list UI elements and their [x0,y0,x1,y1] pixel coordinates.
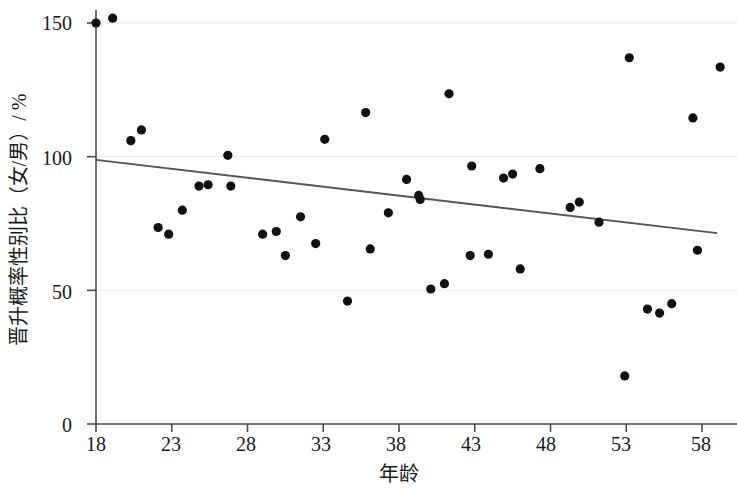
x-tick-label-43: 43 [446,434,496,454]
x-tick-label-48: 48 [521,434,571,454]
data-point [693,246,702,255]
data-point [272,227,281,236]
y-tick-label-50: 50 [26,282,72,302]
data-point [508,169,517,178]
x-tick-label-53: 53 [596,434,646,454]
data-point [575,198,584,207]
data-point [655,308,664,317]
x-tick-label-23: 23 [146,434,196,454]
data-point [625,53,634,62]
data-point [444,89,453,98]
data-point [384,208,393,217]
data-point [108,14,117,23]
y-axis-ticks [87,23,96,424]
x-axis-ticks [96,424,702,432]
data-point [566,203,575,212]
data-point [258,230,267,239]
y-tick-label-150: 150 [26,13,72,33]
data-point [223,151,232,160]
y-tick-label-0: 0 [26,415,72,435]
y-tick-label-100: 100 [26,148,72,168]
data-point [343,296,352,305]
x-axis-title: 年龄 [96,458,702,487]
axis-lines [96,10,737,424]
data-point [467,161,476,170]
trend-line [96,160,717,233]
plot-svg [78,8,737,432]
data-point [366,244,375,253]
data-point [594,218,603,227]
data-point [440,279,449,288]
data-point [126,136,135,145]
data-point [426,284,435,293]
data-point [226,181,235,190]
data-point [320,135,329,144]
data-point [361,108,370,117]
data-point [164,230,173,239]
data-point [667,299,676,308]
data-point [91,18,100,27]
data-point [688,113,697,122]
data-point [281,251,290,260]
x-tick-label-28: 28 [221,434,271,454]
data-point [194,181,203,190]
x-tick-label-33: 33 [296,434,346,454]
data-point [416,195,425,204]
data-point [466,251,475,260]
x-tick-label-38: 38 [371,434,421,454]
data-point [499,173,508,182]
data-point [402,175,411,184]
data-point [516,264,525,273]
x-tick-label-58: 58 [676,434,726,454]
data-point [716,63,725,72]
data-point [137,125,146,134]
data-point [484,250,493,259]
data-point [643,304,652,313]
data-point [296,212,305,221]
data-point [154,223,163,232]
data-point [204,180,213,189]
y-axis-title: 晋升概率性别比（女/男）/ % [0,0,34,440]
data-point [178,206,187,215]
data-point [620,371,629,380]
trend-line-segment [96,160,717,233]
data-point [311,239,320,248]
scatter-chart: 晋升概率性别比（女/男）/ % 150 100 50 0 18 23 28 33… [0,0,737,488]
data-point [535,164,544,173]
x-tick-label-18: 18 [71,434,121,454]
plot-area [78,8,737,432]
